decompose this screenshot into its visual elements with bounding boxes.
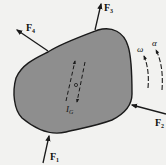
force-f1-arrow (43, 136, 49, 163)
free-body-diagram: F3 F4 F2 F1 IG ω α (0, 0, 166, 165)
force-f4: F4 (17, 22, 48, 51)
alpha-arrow (156, 50, 162, 90)
force-f1: F1 (43, 136, 59, 163)
angular-velocity: ω (137, 44, 148, 88)
force-f3: F3 (95, 2, 113, 30)
force-f2-arrow (132, 105, 166, 114)
force-f3-arrow (95, 4, 101, 30)
force-f4-label: F4 (26, 22, 35, 34)
angular-acceleration: α (152, 38, 162, 90)
force-f3-label: F3 (104, 2, 113, 14)
omega-label: ω (137, 44, 143, 54)
alpha-label: α (152, 38, 157, 48)
rigid-body-shape (14, 29, 132, 133)
force-f1-label: F1 (50, 151, 59, 163)
force-f2: F2 (132, 105, 166, 129)
force-f2-label: F2 (155, 117, 164, 129)
omega-arrow (144, 56, 148, 88)
